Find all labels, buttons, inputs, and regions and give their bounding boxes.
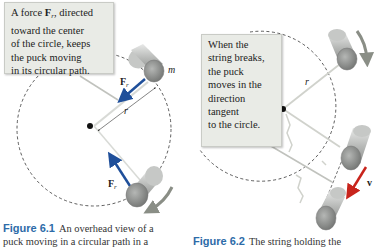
callout-line-2: toward the center — [11, 24, 107, 38]
callout-line-1: When the — [208, 38, 275, 51]
puck-2-bottom — [316, 187, 346, 230]
callout-text: A force — [11, 7, 45, 18]
motion-arrow — [150, 187, 172, 210]
caption-text: An overhead view of a — [59, 223, 154, 234]
figure-6-1-caption: Figure 6.1An overhead view of a puck mov… — [3, 222, 154, 248]
callout-line-5: direction — [208, 92, 275, 105]
caption-text: The string holding the — [249, 236, 341, 247]
callout-line-3: the puck — [208, 65, 275, 78]
velocity-label: v — [367, 177, 372, 188]
radius-label: r — [124, 105, 128, 116]
figure-6-2-caption: Figure 6.2The string holding the — [193, 235, 341, 248]
callout-line-4: the puck moving — [11, 51, 107, 65]
callout-line-2: string breaks, — [208, 51, 275, 64]
puck-bottom — [126, 166, 163, 207]
callout-string-breaks: When the string breaks, the puck moves i… — [201, 34, 282, 147]
caption-text-line2: puck moving in a circular path in a — [3, 235, 154, 248]
force-label-top: Fr — [120, 76, 129, 89]
callout-line-7: to the circle. — [208, 118, 275, 131]
center-point — [87, 123, 93, 129]
callout-text: , directed — [54, 7, 93, 18]
mass-label: m — [168, 64, 175, 75]
figure-number: Figure 6.2 — [193, 235, 245, 247]
puck-2-middle — [341, 125, 371, 170]
callout-line-6: tangent — [208, 105, 275, 118]
callout-line-4: moves in the — [208, 78, 275, 91]
string-bottom — [94, 126, 140, 180]
motion-arrow-2 — [357, 31, 367, 60]
puck-2-top — [328, 29, 357, 70]
radius-label-2: r — [305, 76, 309, 87]
callout-line-1: A force Fr, directed — [11, 6, 107, 24]
puck-top — [125, 44, 164, 82]
force-label-bottom: Fr — [108, 178, 117, 191]
callout-force: A force Fr, directed toward the center o… — [4, 2, 114, 74]
callout-line-5: in its circular path. — [11, 64, 107, 78]
figure-number: Figure 6.1 — [3, 222, 55, 234]
callout-line-3: of the circle, keeps — [11, 37, 107, 51]
velocity-arrow — [350, 167, 366, 193]
